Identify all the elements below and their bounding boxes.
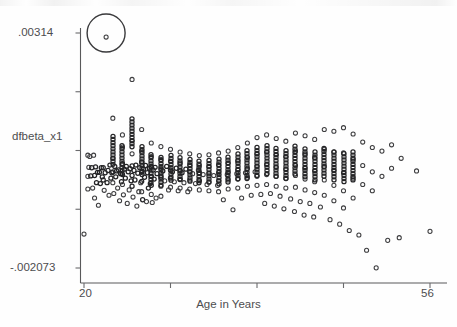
- data-point: [284, 186, 288, 190]
- data-point: [259, 192, 263, 196]
- data-point: [217, 190, 221, 194]
- plot-canvas: [0, 0, 457, 327]
- data-point: [111, 181, 115, 185]
- data-point: [135, 204, 139, 208]
- data-point: [102, 188, 106, 192]
- data-point: [265, 172, 269, 176]
- data-point: [134, 163, 138, 167]
- data-point: [140, 190, 144, 194]
- data-point: [365, 248, 369, 252]
- data-point: [302, 213, 306, 217]
- data-point: [111, 162, 115, 166]
- data-point: [265, 182, 269, 186]
- data-point: [272, 204, 276, 208]
- data-point: [112, 191, 116, 195]
- data-point: [361, 163, 365, 167]
- data-point: [201, 173, 205, 177]
- data-point: [159, 183, 163, 187]
- data-point: [414, 169, 418, 173]
- data-point: [282, 207, 286, 211]
- data-point: [144, 200, 148, 204]
- data-point: [341, 206, 345, 210]
- data-point: [342, 180, 346, 184]
- data-point: [303, 134, 307, 138]
- data-point: [332, 183, 336, 187]
- axes-group: [76, 28, 448, 288]
- data-point: [312, 215, 316, 219]
- data-point: [197, 188, 201, 192]
- data-point: [338, 222, 342, 226]
- data-point: [347, 228, 351, 232]
- data-point: [240, 196, 244, 200]
- data-point: [322, 127, 326, 131]
- data-point: [370, 170, 374, 174]
- data-point: [116, 186, 120, 190]
- y-axis-title: dfbeta_x1: [12, 131, 63, 143]
- data-point: [149, 181, 153, 185]
- data-point: [107, 193, 111, 197]
- scatter-plot-figure: .00314 -.002073 dfbeta_x1 20 56 Age in Y…: [0, 0, 457, 327]
- data-point: [274, 174, 278, 178]
- data-point: [159, 194, 163, 198]
- data-point: [236, 145, 240, 149]
- data-point: [351, 132, 355, 136]
- data-point: [188, 179, 192, 183]
- data-point: [212, 173, 216, 177]
- data-point: [265, 133, 269, 137]
- y-axis-tick-label-top: .00314: [18, 27, 53, 39]
- data-point: [313, 191, 317, 195]
- data-point: [101, 178, 105, 182]
- data-point: [197, 154, 201, 158]
- data-point: [361, 140, 365, 144]
- data-point: [168, 147, 172, 151]
- data-point: [82, 232, 86, 236]
- outlier-highlight-group: [87, 14, 125, 52]
- data-point: [274, 184, 278, 188]
- data-point: [182, 181, 186, 185]
- data-point: [91, 186, 95, 190]
- data-point: [341, 189, 345, 193]
- data-point: [111, 116, 115, 120]
- data-point: [263, 201, 267, 205]
- data-point: [289, 197, 293, 201]
- data-point: [149, 141, 153, 145]
- data-point: [188, 152, 192, 156]
- data-point: [303, 188, 307, 192]
- data-point: [249, 193, 253, 197]
- data-point: [92, 153, 96, 157]
- data-point: [284, 176, 288, 180]
- data-point: [374, 266, 378, 270]
- data-point: [231, 208, 235, 212]
- data-point: [131, 195, 135, 199]
- data-point: [245, 176, 249, 180]
- data-point: [341, 126, 345, 130]
- data-point: [93, 196, 97, 200]
- data-point: [159, 145, 163, 149]
- data-point: [293, 185, 297, 189]
- data-point: [293, 131, 297, 135]
- data-point: [255, 136, 259, 140]
- data-point: [292, 209, 296, 213]
- data-point: [361, 182, 365, 186]
- data-point: [255, 183, 259, 187]
- data-point: [328, 218, 332, 222]
- data-point: [150, 200, 154, 204]
- data-point: [207, 153, 211, 157]
- data-point: [105, 181, 109, 185]
- data-point: [351, 196, 355, 200]
- data-point: [308, 201, 312, 205]
- data-point: [390, 143, 394, 147]
- data-point: [226, 149, 230, 153]
- data-point: [332, 199, 336, 203]
- y-axis-tick-label-bottom: -.002073: [10, 262, 55, 274]
- data-point: [322, 193, 326, 197]
- data-point: [370, 145, 374, 149]
- data-point: [140, 127, 144, 131]
- data-point: [255, 173, 259, 177]
- data-point: [104, 35, 108, 39]
- data-point: [114, 175, 118, 179]
- data-point: [86, 187, 90, 191]
- data-point: [236, 177, 240, 181]
- data-point: [96, 203, 100, 207]
- data-point: [154, 196, 158, 200]
